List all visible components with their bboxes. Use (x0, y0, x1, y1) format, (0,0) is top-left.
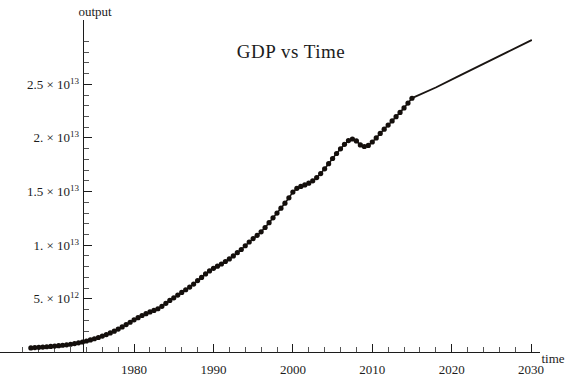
y-tick-label: 1. × 1013 (33, 237, 79, 253)
y-tick-label: 2. × 1013 (33, 129, 79, 145)
chart-title: GDP vs Time (237, 41, 345, 62)
data-point (290, 190, 295, 195)
data-point (382, 127, 387, 132)
data-point (239, 247, 244, 252)
y-axis-tick-labels: 5. × 10121. × 10131.5 × 10132. × 10132.5… (27, 76, 80, 307)
data-point (274, 210, 279, 215)
data-point (243, 243, 248, 248)
data-point (326, 161, 331, 166)
data-point (334, 151, 339, 156)
y-axis-ticks (83, 41, 92, 341)
data-point (314, 175, 319, 180)
plot-canvas: GDP vs Time output time 5. × 10121. × 10… (0, 0, 582, 383)
x-tick-label: 2020 (439, 362, 465, 377)
data-point (262, 225, 267, 230)
data-point (393, 114, 398, 119)
x-tick-label: 2000 (280, 362, 306, 377)
x-tick-label: 1990 (200, 362, 226, 377)
data-point (386, 122, 391, 127)
data-point (286, 195, 291, 200)
data-point (322, 166, 327, 171)
data-point (330, 156, 335, 161)
data-point (255, 233, 260, 238)
data-series-layer (28, 40, 531, 350)
x-tick-label: 2010 (359, 362, 385, 377)
data-point (342, 142, 347, 147)
data-point (278, 206, 283, 211)
data-point (247, 239, 252, 244)
x-tick-label: 1980 (121, 362, 147, 377)
y-tick-label: 5. × 1012 (33, 290, 79, 306)
data-point (338, 146, 343, 151)
data-point (259, 229, 264, 234)
data-point (318, 171, 323, 176)
data-point (401, 105, 406, 110)
series-line-extrapolation (412, 40, 531, 98)
x-axis-label: time (541, 351, 564, 366)
data-point (191, 281, 196, 286)
data-point (266, 220, 271, 225)
data-point (378, 131, 383, 136)
x-tick-label: 2030 (518, 362, 544, 377)
y-axis-label: output (78, 4, 112, 19)
x-axis-tick-labels: 198019902000201020202030 (121, 362, 544, 377)
data-point (370, 139, 375, 144)
gdp-vs-time-plot: GDP vs Time output time 5. × 10121. × 10… (0, 0, 582, 383)
data-point (282, 201, 287, 206)
data-point (405, 100, 410, 105)
data-point (270, 215, 275, 220)
data-point (397, 110, 402, 115)
data-point (390, 118, 395, 123)
y-tick-label: 1.5 × 1013 (27, 183, 80, 199)
data-point (374, 135, 379, 140)
data-point (354, 138, 359, 143)
data-point (199, 275, 204, 280)
x-axis-ticks (23, 344, 531, 353)
data-point (366, 143, 371, 148)
y-tick-label: 2.5 × 1013 (27, 76, 80, 92)
series-line-observed (31, 98, 412, 348)
